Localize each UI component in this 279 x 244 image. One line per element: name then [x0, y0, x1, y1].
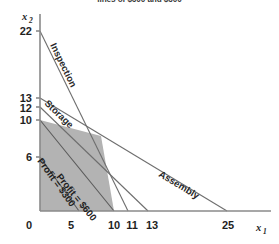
series-label-inspection: Inspection [48, 41, 79, 89]
y-tick-label-22: 22 [20, 25, 32, 37]
x-axis-label: x [255, 222, 261, 233]
x-axis-label-subscript: 1 [263, 227, 267, 236]
plot-area: 22 13 12 10 6 0 5 10 11 13 25 x 2 x 1 In… [0, 0, 279, 244]
y-axis-label-subscript: 2 [28, 16, 33, 25]
y-tick-label-12: 12 [20, 102, 32, 114]
y-axis-label: x [21, 11, 27, 22]
y-tick-label-10: 10 [20, 114, 32, 126]
x-tick-label-5: 5 [68, 219, 74, 231]
series-label-assembly: Assembly [157, 168, 202, 201]
x-tick-label-13: 13 [146, 219, 158, 231]
y-tick-label-0: 0 [26, 219, 32, 231]
y-tick-label-6: 6 [26, 151, 32, 163]
x-tick-label-11: 11 [126, 219, 138, 231]
x-tick-label-10: 10 [108, 219, 120, 231]
x-tick-label-25: 25 [222, 219, 234, 231]
linear-programming-chart: lines of $600 and $300 22 13 12 10 6 0 5 [0, 0, 279, 244]
